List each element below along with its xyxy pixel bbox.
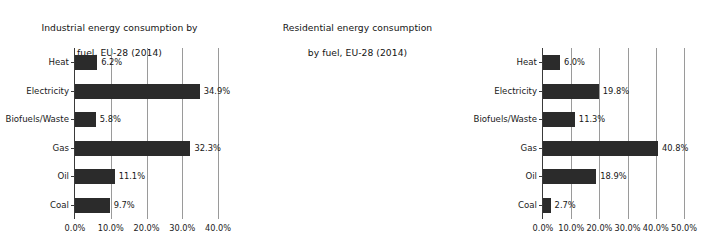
x-axis-tick-label: 20.0%	[586, 223, 612, 233]
category-label-biofuels-waste: Biofuels/Waste	[6, 112, 69, 127]
plot-area-industrial: Heat6.2%Electricity34.9%Biofuels/Waste5.…	[75, 48, 218, 219]
category-label-heat: Heat	[49, 55, 69, 70]
x-axis-tick-label: 40.0%	[205, 223, 231, 233]
bar-row: Gas40.8%	[543, 134, 702, 163]
x-axis-tick-label: 10.0%	[558, 223, 584, 233]
x-axis-tick-label: 50.0%	[671, 223, 697, 233]
category-label-oil: Oil	[525, 169, 537, 184]
bar-row: Coal2.7%	[543, 191, 702, 220]
bar-biofuels-waste[interactable]	[543, 112, 575, 127]
chart-title-line-1: Industrial energy consumption by	[41, 22, 197, 33]
bar-value-label: 34.9%	[200, 84, 230, 99]
x-axis-tick-label: 0.0%	[533, 223, 554, 233]
bar-value-label: 9.7%	[110, 198, 135, 213]
category-label-oil: Oil	[57, 169, 69, 184]
bar-oil[interactable]	[75, 169, 115, 184]
bar-value-label: 40.8%	[658, 141, 688, 156]
category-label-gas: Gas	[521, 141, 537, 156]
bar-coal[interactable]	[543, 198, 551, 213]
bar-value-label: 6.0%	[560, 55, 585, 70]
category-label-coal: Coal	[50, 198, 69, 213]
bar-row: Electricity19.8%	[543, 77, 702, 106]
bar-heat[interactable]	[75, 55, 97, 70]
bar-value-label: 32.3%	[190, 141, 220, 156]
bar-value-label: 5.8%	[96, 112, 121, 127]
x-axis-tick-label: 20.0%	[133, 223, 159, 233]
bar-row: Oil18.9%	[543, 162, 702, 191]
category-label-heat: Heat	[517, 55, 537, 70]
category-label-gas: Gas	[53, 141, 69, 156]
bar-value-label: 2.7%	[551, 198, 576, 213]
x-axis-tick-label: 30.0%	[169, 223, 195, 233]
bar-value-label: 11.1%	[115, 169, 145, 184]
bar-electricity[interactable]	[75, 84, 200, 99]
chart-title-residential: Residential energy consumption by fuel, …	[238, 9, 477, 59]
plot-area-residential: Heat6.0%Electricity19.8%Biofuels/Waste11…	[543, 48, 684, 219]
bar-value-label: 19.8%	[599, 84, 629, 99]
chart-title-line-2: by fuel, EU-28 (2014)	[308, 47, 407, 58]
chart-title-line-1: Residential energy consumption	[283, 22, 432, 33]
x-axis-tick-label: 40.0%	[643, 223, 669, 233]
bar-coal[interactable]	[75, 198, 110, 213]
bar-heat[interactable]	[543, 55, 560, 70]
bar-gas[interactable]	[75, 141, 190, 156]
bar-row: Biofuels/Waste11.3%	[543, 105, 702, 134]
bar-biofuels-waste[interactable]	[75, 112, 96, 127]
bar-gas[interactable]	[543, 141, 658, 156]
bar-oil[interactable]	[543, 169, 596, 184]
category-label-biofuels-waste: Biofuels/Waste	[474, 112, 537, 127]
category-label-electricity: Electricity	[26, 84, 69, 99]
bar-row: Heat6.0%	[543, 48, 702, 77]
category-label-coal: Coal	[518, 198, 537, 213]
chart-panel-industrial: Industrial energy consumption by fuel, E…	[0, 0, 239, 248]
bar-value-label: 11.3%	[575, 112, 605, 127]
chart-panel-residential: Residential energy consumption by fuel, …	[238, 0, 477, 248]
bar-value-label: 6.2%	[97, 55, 122, 70]
x-axis-tick-label: 10.0%	[98, 223, 124, 233]
bar-electricity[interactable]	[543, 84, 599, 99]
category-label-electricity: Electricity	[494, 84, 537, 99]
x-axis-tick-label: 0.0%	[65, 223, 86, 233]
x-axis-tick-label: 30.0%	[615, 223, 641, 233]
bar-value-label: 18.9%	[596, 169, 626, 184]
